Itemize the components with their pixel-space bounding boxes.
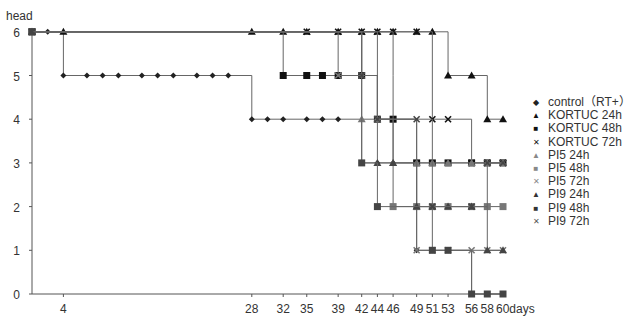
y-tick-label: 0: [13, 288, 20, 302]
diamond-marker: [210, 73, 216, 79]
diamond-marker: [225, 73, 231, 79]
square-marker: [445, 247, 452, 254]
legend-marker-icon: ✕: [530, 136, 542, 149]
square-marker: [484, 291, 491, 298]
diamond-marker: [60, 73, 66, 79]
diamond-marker: [265, 116, 271, 122]
x-tick-label: 58: [481, 302, 495, 316]
x-tick-label: 4: [60, 302, 67, 316]
legend-marker-icon: ▲: [530, 149, 542, 162]
x-tick-label: 32: [277, 302, 291, 316]
legend-marker-icon: ■: [530, 162, 542, 175]
x-tick-label: 42: [355, 302, 369, 316]
x-tick-label: 35: [300, 302, 314, 316]
square-marker: [500, 291, 507, 298]
legend-item: ▲PI9 24h: [530, 188, 631, 201]
x-tick-label: 53: [441, 302, 455, 316]
legend-marker-icon: ✕: [530, 215, 542, 228]
legend-item: ✕KORTUC 72h: [530, 136, 631, 149]
legend-label: KORTUC 72h: [548, 136, 622, 149]
x-tick-label: 44: [371, 302, 385, 316]
series-group: [28, 28, 507, 298]
y-tick-label: 5: [13, 70, 20, 84]
x-tick-label: 51: [426, 302, 440, 316]
square-marker: [319, 72, 326, 79]
series-pi9-24h: [28, 28, 507, 254]
y-tick-label: 6: [13, 26, 20, 40]
legend-marker-icon: ▲: [530, 109, 542, 122]
diamond-marker: [194, 73, 200, 79]
y-axis-label: head: [6, 9, 33, 23]
diamond-marker: [304, 116, 310, 122]
y-tick-label: 2: [13, 201, 20, 215]
diamond-marker: [115, 73, 121, 79]
diamond-marker: [155, 73, 161, 79]
x-tick-label: 46: [386, 302, 400, 316]
square-marker: [468, 291, 475, 298]
diamond-marker: [139, 73, 145, 79]
square-marker: [280, 72, 287, 79]
legend-item: ■PI9 48h: [530, 202, 631, 215]
legend-item: ■KORTUC 48h: [530, 122, 631, 135]
square-marker: [374, 203, 381, 210]
y-tick-label: 3: [13, 157, 20, 171]
diamond-marker: [319, 116, 325, 122]
y-tick-label: 1: [13, 244, 20, 258]
legend-marker-icon: ■: [530, 122, 542, 135]
x-tick-label: 60days: [496, 302, 535, 316]
series-kortuc-72h: [29, 29, 506, 166]
diamond-marker: [249, 116, 255, 122]
series-pi5-72h: [29, 29, 506, 254]
series-kortuc-48h: [29, 28, 507, 166]
legend-item: ✕PI9 72h: [530, 215, 631, 228]
legend-label: PI9 24h: [548, 188, 589, 201]
y-tick-label: 4: [13, 113, 20, 127]
diamond-marker: [84, 73, 90, 79]
square-marker: [358, 159, 365, 166]
legend-label: PI9 72h: [548, 215, 589, 228]
x-tick-label: 56: [465, 302, 479, 316]
diamond-marker: [335, 116, 341, 122]
x-tick-label: 28: [245, 302, 259, 316]
x-tick-label: 39: [331, 302, 345, 316]
legend: ◆control（RT+）▲KORTUC 24h■KORTUC 48h✕KORT…: [530, 96, 631, 228]
legend-label: PI9 48h: [548, 202, 589, 215]
square-marker: [303, 72, 310, 79]
diamond-marker: [170, 73, 176, 79]
square-marker: [429, 247, 436, 254]
legend-marker-icon: ◆: [530, 96, 542, 109]
diamond-marker: [280, 116, 286, 122]
diamond-marker: [100, 73, 106, 79]
legend-marker-icon: ✕: [530, 175, 542, 188]
legend-label: KORTUC 48h: [548, 122, 622, 135]
x-tick-label: 49: [410, 302, 424, 316]
series-pi5-24h: [28, 28, 507, 166]
square-marker: [500, 203, 507, 210]
legend-marker-icon: ▲: [530, 188, 542, 201]
legend-marker-icon: ■: [530, 202, 542, 215]
